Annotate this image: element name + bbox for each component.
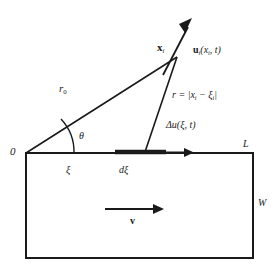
top-boundary-arrowhead	[184, 148, 194, 157]
domain-rectangle	[26, 153, 253, 258]
velocity-label: v	[130, 216, 135, 226]
r0-ray-line	[26, 57, 177, 153]
displacement-arg-open: (x	[200, 44, 208, 55]
delta-u-lead: Δu(	[166, 119, 180, 130]
field-point-label: xi	[157, 42, 164, 55]
d-xi-label-symbol: ξ	[124, 164, 128, 175]
L-length-label: L	[243, 139, 249, 149]
displacement-vector-arrowhead	[179, 18, 192, 33]
r-distance-line	[145, 57, 177, 152]
r-equation-tail: |	[214, 89, 217, 100]
field-point-label-subscript: i	[163, 47, 165, 54]
xi-label: ξ	[66, 165, 70, 175]
origin-label: 0	[10, 146, 16, 157]
diagram-canvas: 0 θ r0 ξ dξ L W v xi ui(xi, t) r = |xi −…	[0, 0, 278, 273]
r-equation-middle: − ξ	[197, 89, 213, 100]
r-equation-label: r = |xi − ξi|	[172, 90, 217, 101]
theta-label: θ	[79, 131, 84, 141]
diagram-vector-layer	[0, 0, 278, 273]
W-width-label: W	[258, 198, 266, 208]
displacement-vector-shaft	[163, 27, 188, 75]
displacement-arg-tail: , t)	[210, 44, 221, 55]
r0-label: r0	[59, 83, 67, 96]
delta-u-tail: , t)	[185, 119, 196, 130]
r-equation-relation: = |x	[176, 89, 195, 100]
delta-u-label: Δu(ξ, t)	[166, 120, 196, 130]
d-xi-label: dξ	[119, 165, 128, 175]
r0-label-subscript: 0	[63, 88, 66, 95]
velocity-arrowhead	[153, 204, 164, 214]
displacement-field-label: ui(xi, t)	[193, 45, 221, 56]
